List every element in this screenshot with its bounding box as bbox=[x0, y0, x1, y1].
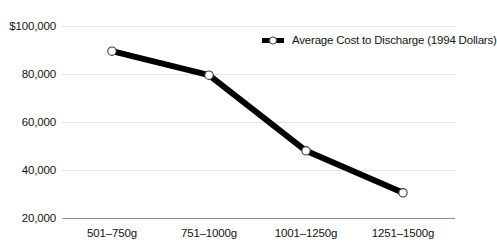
data-point-1251–1500g bbox=[399, 189, 407, 197]
legend: Average Cost to Discharge (1994 Dollars) bbox=[261, 34, 497, 46]
series-line-average-cost bbox=[112, 51, 403, 193]
data-point-501–750g bbox=[108, 47, 116, 55]
data-point-1001–1250g bbox=[302, 147, 310, 155]
legend-label: Average Cost to Discharge (1994 Dollars) bbox=[292, 34, 497, 46]
data-point-751–1000g bbox=[205, 71, 213, 79]
legend-marker-icon bbox=[261, 35, 285, 46]
